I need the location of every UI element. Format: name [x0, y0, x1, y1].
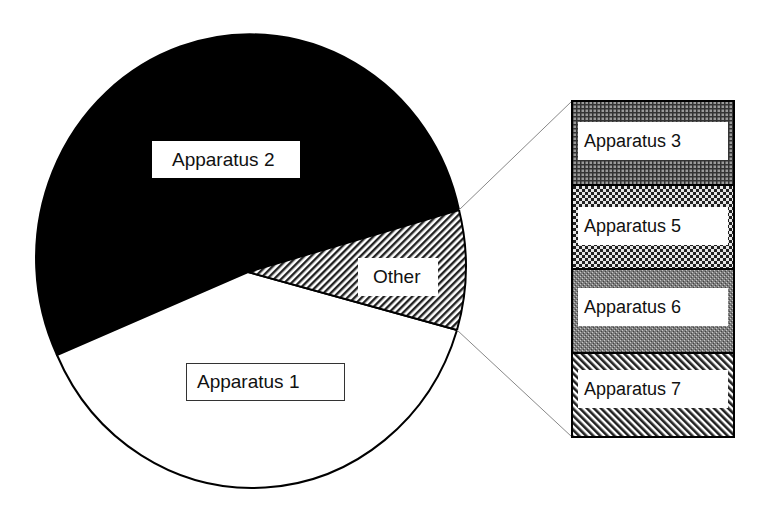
label-apparatus-1: Apparatus 1	[186, 363, 345, 401]
label-other: Other	[358, 258, 438, 296]
label-apparatus-2: Apparatus 2	[152, 141, 300, 178]
label-apparatus-5: Apparatus 5	[578, 207, 728, 245]
label-apparatus-7: Apparatus 7	[578, 370, 728, 408]
connector-line-top	[459, 101, 572, 210]
connector-line-bottom	[457, 330, 572, 437]
label-apparatus-3: Apparatus 3	[578, 122, 728, 160]
label-apparatus-6: Apparatus 6	[578, 288, 728, 326]
pie-of-bar-chart	[0, 0, 766, 511]
